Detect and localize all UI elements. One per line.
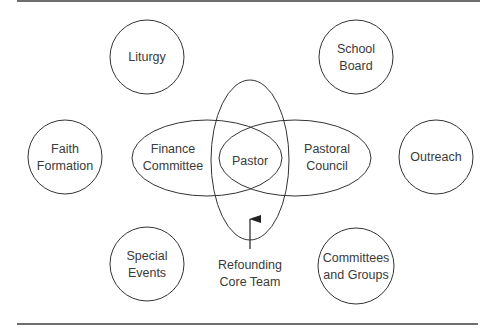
svg-text:and Groups: and Groups [323,268,388,282]
school-board-label-line1: School [337,42,375,56]
satellite-special-events: Special Events [110,227,184,301]
faith-formation-label-line2: Formation [37,159,93,173]
svg-text:Liturgy: Liturgy [128,50,166,64]
faith-formation-circle [28,120,102,194]
finance-committee-label-line1: Finance [151,142,196,156]
pastor-label: Pastor [232,154,268,168]
committees-groups-circle [318,228,394,304]
satellite-outreach: Outreach [399,120,473,194]
special-events-label-line2: Events [128,266,166,280]
svg-text:Special: Special [127,249,168,263]
organization-diagram: Liturgy School Board Faith Formation Out… [0,0,495,328]
outreach-label: Outreach [410,150,461,164]
svg-text:Board: Board [339,59,372,73]
svg-text:School: School [337,42,375,56]
school-board-circle [319,20,393,94]
svg-text:Refounding: Refounding [218,258,282,272]
svg-text:Core Team: Core Team [220,275,281,289]
satellite-faith-formation: Faith Formation [28,120,102,194]
liturgy-label: Liturgy [128,50,166,64]
svg-text:Faith: Faith [51,142,79,156]
svg-text:Outreach: Outreach [410,150,461,164]
satellite-school-board: School Board [319,20,393,94]
pastoral-council-label-line1: Pastoral [304,142,350,156]
svg-text:Committees: Committees [323,251,390,265]
svg-text:Council: Council [306,159,348,173]
special-events-circle [110,227,184,301]
refounding-core-team-label-line2: Core Team [220,275,281,289]
svg-text:Pastoral: Pastoral [304,142,350,156]
refounding-core-team-label-line1: Refounding [218,258,282,272]
svg-text:Finance: Finance [151,142,196,156]
pastoral-council-label-line2: Council [306,159,348,173]
satellite-committees-groups: Committees and Groups [318,228,394,304]
school-board-label-line2: Board [339,59,372,73]
svg-text:Pastor: Pastor [232,154,268,168]
committees-groups-label-line2: and Groups [323,268,388,282]
special-events-label-line1: Special [127,249,168,263]
finance-committee-label-line2: Committee [143,159,203,173]
faith-formation-label-line1: Faith [51,142,79,156]
satellite-liturgy: Liturgy [110,20,184,94]
committees-groups-label-line1: Committees [323,251,390,265]
svg-text:Formation: Formation [37,159,93,173]
svg-text:Events: Events [128,266,166,280]
svg-text:Committee: Committee [143,159,203,173]
